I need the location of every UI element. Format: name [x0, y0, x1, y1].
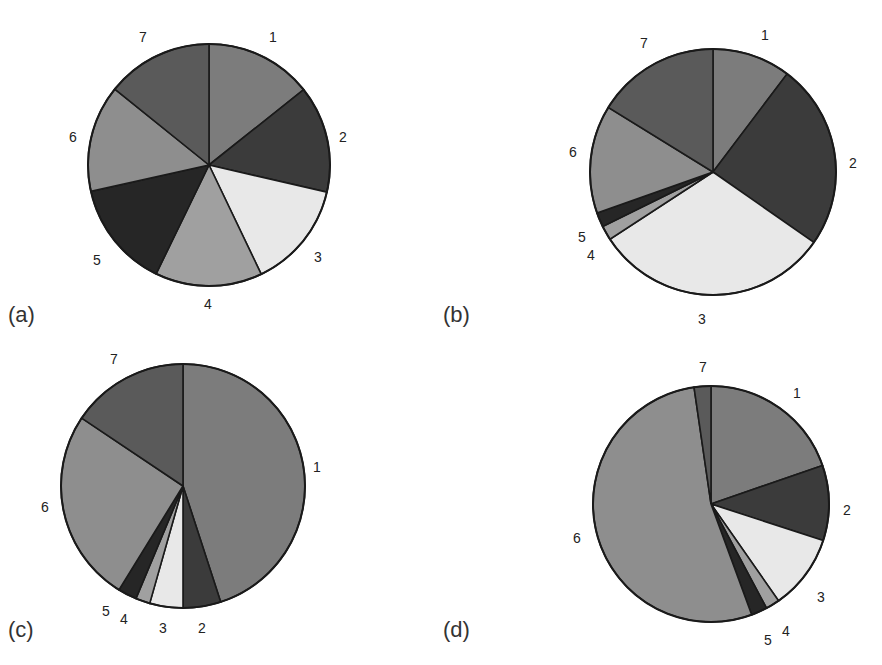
panel-label-d: (d) [443, 617, 470, 642]
pie-c-slice-label-6: 6 [41, 499, 49, 515]
pie-c-slice-label-4: 4 [120, 611, 128, 627]
pie-c-slice-label-3: 3 [159, 620, 167, 636]
pie-chart-d: 1234567(d) [443, 359, 851, 648]
pie-a-slice-label-4: 4 [204, 296, 212, 312]
panel-label-b: (b) [443, 302, 470, 327]
pie-b-slice-label-5: 5 [578, 229, 586, 245]
pie-b-slice-label-4: 4 [587, 247, 595, 263]
pie-chart-b: 1234567(b) [443, 27, 857, 327]
pie-b-slice-label-3: 3 [698, 311, 706, 327]
pie-c-slice-label-2: 2 [198, 620, 206, 636]
pie-d-slice-label-5: 5 [764, 632, 772, 648]
pie-a-slice-label-5: 5 [93, 252, 101, 268]
pie-c-slice-label-5: 5 [102, 603, 110, 619]
pie-b-slice-label-1: 1 [761, 27, 769, 43]
pie-d-slice-label-6: 6 [573, 530, 581, 546]
pie-a-slice-label-2: 2 [339, 129, 347, 145]
pie-b-slice-label-2: 2 [849, 155, 857, 171]
pie-d-slice-label-3: 3 [817, 589, 825, 605]
pie-b-slice-label-6: 6 [569, 144, 577, 160]
pie-chart-c: 1234567(c) [8, 351, 321, 642]
panel-label-c: (c) [8, 617, 34, 642]
pie-a-slice-label-1: 1 [269, 29, 277, 45]
pie-a-slice-label-6: 6 [69, 129, 77, 145]
pie-b-slice-label-7: 7 [640, 35, 648, 51]
pie-d-slice-label-4: 4 [782, 623, 790, 639]
pie-d-slice-label-7: 7 [699, 359, 707, 375]
pie-a-slice-label-7: 7 [139, 29, 147, 45]
pie-d-slice-label-1: 1 [793, 385, 801, 401]
pie-c-slice-label-1: 1 [313, 459, 321, 475]
panel-label-a: (a) [8, 302, 35, 327]
pie-d-slice-label-2: 2 [843, 502, 851, 518]
pie-chart-a: 1234567(a) [8, 29, 347, 327]
pie-c-slice-label-7: 7 [110, 351, 118, 367]
pie-chart-figure: 1234567(a) 1234567(b) 1234567(c) 1234567… [0, 0, 882, 665]
pie-a-slice-label-3: 3 [314, 249, 322, 265]
